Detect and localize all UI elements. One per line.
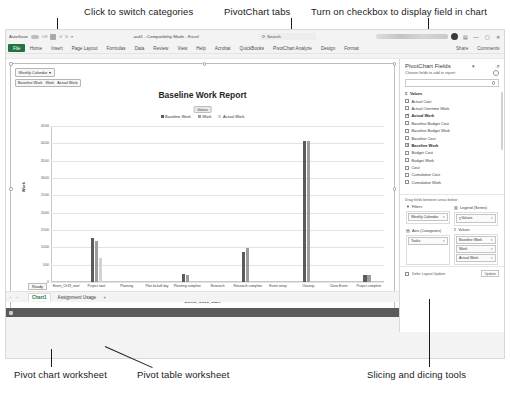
sheet-nav-arrows[interactable]: ‹ › [10, 295, 20, 300]
field-checkbox[interactable] [405, 173, 409, 177]
x-axis-tick: Event setup [269, 284, 286, 288]
ribbon-display-icon[interactable]: ▤ [461, 34, 469, 40]
field-item-actual-overtime-work[interactable]: Actual Overtime Work [405, 105, 499, 112]
field-item-baseline-work[interactable]: Baseline Work [405, 142, 499, 149]
ribbon-tab-view[interactable]: View [173, 46, 192, 51]
maximize-icon[interactable]: ▢ [483, 34, 491, 40]
value-field-work[interactable]: Work [45, 81, 54, 85]
area-values[interactable]: Σ Values Baseline Work ▾ Work ▾ [452, 227, 500, 266]
resize-handle-nw[interactable] [9, 62, 13, 66]
ribbon-tab-data[interactable]: Data [130, 46, 149, 51]
field-item-values[interactable]: ΣValues [405, 90, 499, 97]
chip-weekly-calendar[interactable]: Weekly Calendar ▾ [408, 213, 448, 221]
field-checkbox[interactable] [405, 166, 409, 170]
resize-handle-w[interactable] [9, 187, 13, 191]
field-label: Cumulative Work [412, 180, 442, 185]
field-checkbox[interactable] [405, 121, 409, 125]
chart-filter-button-weekly-calendar[interactable]: Weekly Calendar ▾ [15, 68, 55, 77]
ribbon-tab-help[interactable]: Help [192, 46, 210, 51]
sigma-icon: Σ [454, 228, 456, 232]
undo-icon[interactable]: ↺ [59, 34, 62, 39]
qat-more-icon[interactable]: ▾ [71, 34, 73, 39]
legend-values-button[interactable]: Values [193, 106, 212, 113]
ribbon-tab-review[interactable]: Review [149, 46, 173, 51]
redo-icon[interactable]: ↻ [65, 34, 68, 39]
field-checkbox[interactable] [405, 106, 409, 110]
value-field-actual-work[interactable]: Actual Work [57, 81, 77, 85]
value-field-baseline-work[interactable]: Baseline Work [18, 81, 42, 85]
field-search-input[interactable] [405, 79, 499, 87]
chevron-down-icon[interactable]: ▾ [491, 216, 493, 220]
ribbon-tab-file[interactable]: File [8, 44, 25, 52]
legend-swatch-baseline-work [161, 115, 164, 118]
ribbon-tab-acrobat[interactable]: Acrobat [210, 46, 235, 51]
field-checkbox[interactable] [405, 136, 409, 140]
minimize-icon[interactable]: — [472, 34, 480, 40]
area-filters[interactable]: ▼ Filters Weekly Calendar ▾ [404, 204, 452, 227]
defer-layout-checkbox[interactable] [405, 272, 409, 276]
field-checkbox[interactable] [405, 99, 409, 103]
comments-button[interactable]: Comments [473, 46, 504, 51]
avatar[interactable] [451, 33, 458, 40]
ribbon-tab-pivotchart-analyze[interactable]: PivotChart Analyze [269, 46, 317, 51]
field-checkbox[interactable] [405, 114, 409, 118]
ribbon-tab-page-layout[interactable]: Page Layout [67, 46, 102, 51]
field-checkbox[interactable] [405, 151, 409, 155]
add-sheet-button[interactable]: + [103, 294, 106, 300]
chevron-down-icon[interactable]: ▾ [443, 215, 445, 219]
field-checkbox[interactable] [405, 143, 409, 147]
pane-close-icon[interactable]: ✕ [492, 63, 500, 69]
pane-options-icon[interactable]: ▾ [468, 63, 475, 69]
resize-handle-ne[interactable] [393, 62, 397, 66]
field-checkbox[interactable] [405, 129, 409, 133]
bar-work [246, 248, 249, 282]
bar-work [367, 275, 370, 282]
field-item-cumulative-cost[interactable]: Cumulative Cost [405, 171, 499, 178]
chip-values[interactable]: Σ Values ▾ [456, 214, 496, 223]
field-item-baseline-cost[interactable]: Baseline Cost [405, 134, 499, 141]
field-item-actual-cost[interactable]: Actual Cost [405, 97, 499, 104]
field-checkbox[interactable] [405, 180, 409, 184]
chip-tasks[interactable]: Tasks ▾ [408, 237, 448, 245]
area-axis[interactable]: ▤ Axis (Categories) Tasks ▾ [404, 227, 452, 266]
resize-handle-e[interactable] [393, 187, 397, 191]
field-item-cost[interactable]: Cost [405, 164, 499, 171]
ribbon-tab-format[interactable]: Format [340, 46, 364, 51]
chip-baseline-work[interactable]: Baseline Work ▾ [456, 236, 496, 244]
chart-value-field-buttons[interactable]: Baseline Work Work Actual Work [15, 79, 81, 87]
chevron-down-icon[interactable]: ▾ [491, 256, 493, 260]
area-legend[interactable]: ▥ Legend (Series) Σ Values ▾ [452, 204, 500, 227]
pivotchart-object[interactable]: Weekly Calendar ▾ Baseline Work Work Act… [10, 63, 395, 311]
search-input[interactable]: Search [259, 33, 316, 40]
ribbon-tab-design[interactable]: Design [316, 46, 339, 51]
chevron-down-icon[interactable]: ▾ [491, 238, 493, 242]
update-button[interactable]: Update [481, 270, 499, 277]
ribbon-tab-quickbooks[interactable]: QuickBooks [235, 46, 269, 51]
field-checkbox[interactable] [405, 158, 409, 162]
chevron-down-icon[interactable]: ▾ [491, 247, 493, 251]
chip-work[interactable]: Work ▾ [456, 245, 496, 253]
sheet-tab-chart1[interactable]: Chart1 [28, 293, 51, 301]
field-item-actual-work[interactable]: Actual Work [405, 112, 499, 119]
resize-handle-n[interactable] [203, 62, 207, 66]
save-icon[interactable] [50, 34, 56, 40]
ribbon-tab-formulas[interactable]: Formulas [102, 46, 130, 51]
field-list[interactable]: ΣValuesActual CostActual Overtime WorkAc… [400, 90, 504, 194]
share-button[interactable]: Share [452, 46, 473, 51]
chip-actual-work[interactable]: Actual Work ▾ [456, 254, 496, 262]
x-axis-tick: Close Event [330, 284, 348, 288]
ribbon-tab-insert[interactable]: Insert [47, 46, 68, 51]
field-item-cumulative-work[interactable]: Cumulative Work [405, 179, 499, 186]
ribbon-tab-home[interactable]: Home [25, 46, 46, 51]
field-item-budget-cost[interactable]: Budget Cost [405, 149, 499, 156]
close-icon[interactable]: ✕ [494, 34, 501, 40]
autosave-toggle[interactable] [31, 35, 39, 39]
x-axis-tick: Planning [120, 284, 133, 288]
gear-icon[interactable] [493, 70, 499, 76]
field-item-baseline-budget-cost[interactable]: Baseline Budget Cost [405, 120, 499, 127]
field-list-scrollbar[interactable] [501, 92, 504, 150]
sheet-tab-assignment-usage[interactable]: Assignment Usage [55, 294, 100, 301]
field-item-baseline-budget-work[interactable]: Baseline Budget Work [405, 127, 499, 134]
chevron-down-icon[interactable]: ▾ [443, 239, 445, 243]
field-item-budget-work[interactable]: Budget Work [405, 157, 499, 164]
